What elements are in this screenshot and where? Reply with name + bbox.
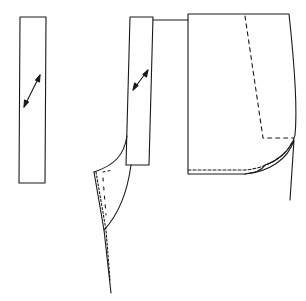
strip-piece-middle [126,17,153,165]
grainline-arrow-icon [133,70,148,90]
front-edge-line [94,172,111,293]
panel-outline [188,14,296,174]
front-edge-piece [94,136,131,293]
panel-dashed-hem [188,142,292,170]
inner-dash-2 [103,178,106,215]
panel-side-extension [245,140,294,200]
pattern-diagram [0,0,306,301]
strip-middle-outline [126,17,153,165]
grainline-arrow-icon [24,75,40,107]
lower-curve [104,165,131,230]
pocket-panel-piece [188,14,296,200]
inner-dash-1 [103,170,112,172]
upper-curve [94,136,127,172]
strip-left-outline [19,17,46,183]
strip-piece-left [19,17,46,183]
panel-dashed-fold [245,16,294,138]
